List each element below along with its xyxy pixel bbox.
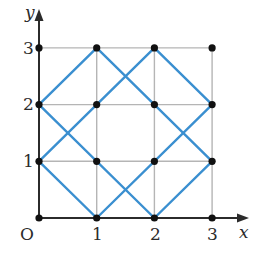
- lattice-point: [209, 158, 216, 165]
- axes: [35, 9, 250, 223]
- grid-lines: [39, 48, 212, 218]
- lattice-point: [35, 158, 42, 165]
- lattice-points: [35, 44, 215, 221]
- coordinate-plane: y x O 1 2 3 1 2 3: [0, 0, 254, 255]
- y-tick-2: 2: [23, 94, 34, 114]
- x-axis-label: x: [239, 222, 249, 242]
- y-axis-label: y: [24, 2, 35, 22]
- origin-label: O: [20, 224, 34, 244]
- y-tick-3: 3: [23, 38, 34, 58]
- lattice-point: [93, 44, 100, 51]
- lattice-point: [93, 214, 100, 221]
- lattice-point: [35, 44, 42, 51]
- lattice-point: [209, 44, 216, 51]
- lattice-point: [151, 101, 158, 108]
- blue-path-segments: [39, 48, 212, 218]
- lattice-point: [151, 44, 158, 51]
- lattice-point: [151, 158, 158, 165]
- path-segment: [39, 161, 97, 218]
- lattice-point: [93, 158, 100, 165]
- y-tick-1: 1: [23, 151, 34, 171]
- path-segment: [154, 48, 212, 105]
- lattice-point: [93, 101, 100, 108]
- lattice-diagram: y x O 1 2 3 1 2 3: [0, 0, 254, 255]
- lattice-point: [35, 214, 42, 221]
- x-tick-3: 3: [207, 224, 218, 244]
- lattice-point: [209, 214, 216, 221]
- lattice-point: [35, 101, 42, 108]
- y-axis-arrow-icon: [35, 9, 44, 21]
- lattice-point: [151, 214, 158, 221]
- path-segment: [154, 161, 212, 218]
- x-tick-1: 1: [92, 224, 103, 244]
- lattice-point: [209, 101, 216, 108]
- path-segment: [39, 48, 97, 105]
- x-tick-2: 2: [150, 224, 161, 244]
